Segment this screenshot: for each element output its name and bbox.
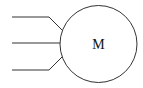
- motor-label: M: [92, 37, 105, 52]
- motor-diagram: M: [0, 0, 143, 88]
- wire-phase-1: [12, 17, 62, 30]
- wire-phase-3: [12, 57, 62, 70]
